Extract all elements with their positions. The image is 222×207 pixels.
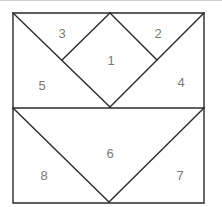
piece-label-6: 6 — [106, 147, 113, 160]
piece-label-2: 2 — [154, 27, 161, 40]
diagonal-mid-left-to-bottom — [13, 108, 109, 202]
piece-label-5: 5 — [38, 79, 45, 92]
diamond-edge-upper-left — [62, 13, 110, 60]
quilt-block-diagram — [0, 0, 222, 207]
piece-label-3: 3 — [58, 27, 65, 40]
piece-label-8: 8 — [40, 169, 47, 182]
piece-label-7: 7 — [176, 169, 183, 182]
diagram-canvas: 3 2 1 5 4 6 8 7 — [0, 0, 222, 207]
diamond-edge-upper-right — [110, 13, 157, 60]
diagonal-mid-right-to-bottom — [109, 108, 204, 202]
piece-label-4: 4 — [177, 76, 184, 89]
piece-label-1: 1 — [107, 54, 114, 67]
